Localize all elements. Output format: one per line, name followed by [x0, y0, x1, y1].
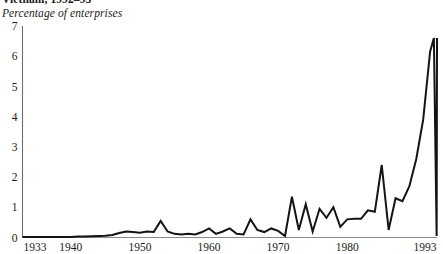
line-chart-plot: 01234567 1933194019501960197019801993	[0, 0, 443, 254]
x-tick-label: 1970	[267, 241, 290, 253]
x-axis-tick-labels: 1933194019501960197019801993	[24, 241, 437, 253]
x-tick-label: 1980	[336, 241, 359, 253]
x-tick-label: 1950	[128, 241, 151, 253]
y-tick-label: 3	[12, 141, 18, 153]
y-tick-label: 2	[12, 171, 18, 183]
x-tick-label: 1940	[59, 241, 82, 253]
y-tick-label: 7	[12, 20, 18, 32]
x-tick-label: 1993	[414, 241, 437, 253]
y-tick-label: 4	[12, 111, 18, 123]
x-tick-label: 1933	[24, 241, 47, 253]
y-tick-label: 6	[12, 50, 18, 62]
y-tick-label: 5	[12, 81, 18, 93]
y-tick-label: 1	[12, 201, 18, 213]
chart-figure: Vietnam, 1992–93 Percentage of enterpris…	[0, 0, 443, 254]
data-series-line	[23, 38, 438, 237]
y-axis-tick-labels: 01234567	[12, 20, 18, 244]
x-tick-label: 1960	[198, 241, 221, 253]
y-tick-label: 0	[12, 232, 18, 244]
